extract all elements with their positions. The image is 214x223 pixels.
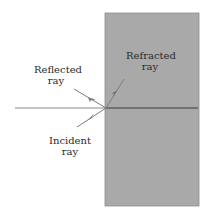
refracted-ray-label-line1: Refracted — [126, 50, 174, 61]
reflected-ray-label: Reflected ray — [34, 64, 78, 86]
refracted-ray-label: Refracted ray — [126, 50, 174, 72]
refraction-diagram: Reflected ray Incident ray Refracted ray — [0, 0, 214, 223]
medium-block — [105, 13, 199, 206]
reflected-ray-arrow-icon — [88, 97, 96, 102]
reflected-ray-label-line1: Reflected — [34, 64, 78, 75]
refracted-ray-label-line2: ray — [126, 61, 174, 72]
incident-ray-label: Incident ray — [49, 135, 91, 157]
diagram-canvas — [0, 0, 214, 223]
incident-ray-label-line2: ray — [49, 146, 91, 157]
reflected-ray-label-line2: ray — [34, 75, 78, 86]
incident-ray-label-line1: Incident — [49, 135, 91, 146]
